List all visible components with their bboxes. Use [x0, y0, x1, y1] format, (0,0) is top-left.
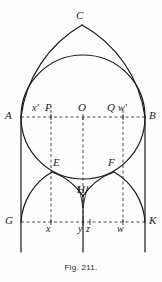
label-point-w-prime: w' — [118, 103, 127, 113]
tick-marks — [51, 114, 123, 225]
label-point-x-prime: x' — [32, 103, 39, 113]
sub-arch-right-inner — [83, 172, 114, 196]
label-point-O: O — [78, 102, 86, 113]
label-point-G: G — [5, 215, 13, 226]
label-point-z: z — [86, 224, 90, 234]
label-point-B: B — [149, 110, 156, 121]
label-point-Q: Q — [107, 102, 115, 113]
sub-arch-left-outer — [21, 172, 52, 222]
label-point-H: H — [77, 184, 85, 195]
label-point-K: K — [149, 215, 156, 226]
label-point-F: F — [108, 157, 115, 168]
geometry-drawing — [0, 0, 162, 282]
label-point-C: C — [76, 10, 83, 21]
label-point-A: A — [5, 110, 12, 121]
sub-arch-right-outer — [114, 172, 145, 222]
figure-container: C A B O P Q x' w' E F H G K x y z w Fig.… — [0, 0, 162, 282]
label-point-E: E — [53, 157, 60, 168]
label-point-P: P — [45, 102, 52, 113]
label-point-w: w — [117, 224, 124, 234]
label-point-y: y — [78, 224, 82, 234]
label-point-x: x — [46, 224, 50, 234]
figure-caption: Fig. 211. — [0, 263, 162, 272]
